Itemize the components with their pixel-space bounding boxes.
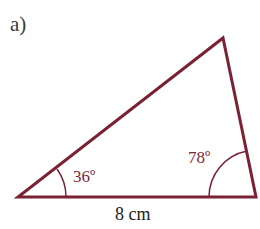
angle-label-left: 36º <box>73 167 95 187</box>
angle-arc-left <box>57 169 66 197</box>
triangle-diagram: a) 36º 78º 8 cm <box>0 0 260 229</box>
angle-arc-right <box>209 151 247 197</box>
triangle-shape <box>18 38 256 197</box>
angle-label-right: 78º <box>188 148 210 168</box>
base-length-label: 8 cm <box>115 204 151 225</box>
triangle-figure <box>0 0 260 229</box>
